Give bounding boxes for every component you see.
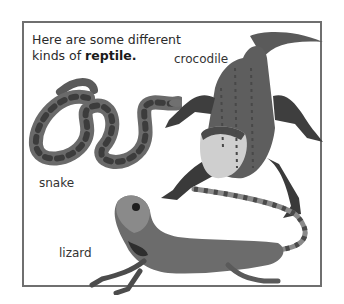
snake-label: snake — [39, 176, 74, 190]
lizard-image — [88, 185, 328, 295]
intro-bold: reptile. — [85, 48, 136, 63]
lizard-label: lizard — [59, 246, 92, 260]
crocodile-label: crocodile — [174, 52, 228, 66]
